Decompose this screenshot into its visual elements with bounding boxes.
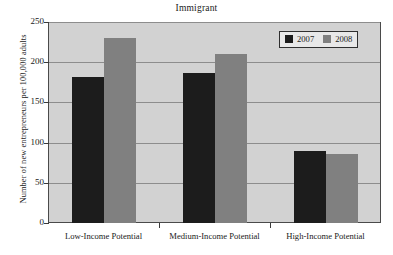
legend-item-2007[interactable]: 2007 <box>285 35 314 44</box>
legend-swatch-2008 <box>323 35 331 43</box>
bar-2007-0 <box>72 77 104 223</box>
legend-label-2007: 2007 <box>297 35 314 44</box>
chart-figure: Immigrant Number of new entrepreneurs pe… <box>0 0 393 255</box>
y-tick-mark-0 <box>44 223 49 224</box>
legend-item-2008[interactable]: 2008 <box>323 35 352 44</box>
legend-swatch-2007 <box>285 35 293 43</box>
x-tick-mark-1 <box>159 223 160 228</box>
y-tick-label-200: 200 <box>0 56 44 68</box>
x-axis-label-1: Medium-Income Potential <box>159 231 270 241</box>
x-axis-label-2: High-Income Potential <box>270 231 381 241</box>
bar-2007-2 <box>294 151 326 223</box>
bar-2008-2 <box>326 154 358 223</box>
x-tick-mark-2 <box>270 223 271 228</box>
chart-title: Immigrant <box>0 3 393 13</box>
bar-2008-0 <box>104 38 136 223</box>
y-axis-label: Number of new entrepreneurs per 100,000 … <box>12 14 26 224</box>
y-tick-label-150: 150 <box>0 96 44 108</box>
x-axis-label-0: Low-Income Potential <box>48 231 159 241</box>
y-tick-label-100: 100 <box>0 137 44 149</box>
y-tick-label-50: 50 <box>0 177 44 189</box>
bar-2008-1 <box>215 54 247 223</box>
bar-series-container <box>48 22 381 223</box>
bar-2007-1 <box>183 73 215 223</box>
y-tick-label-250: 250 <box>0 16 44 28</box>
chart-legend: 2007 2008 <box>279 31 358 48</box>
y-tick-label-0: 0 <box>0 217 44 229</box>
legend-label-2008: 2008 <box>335 35 352 44</box>
